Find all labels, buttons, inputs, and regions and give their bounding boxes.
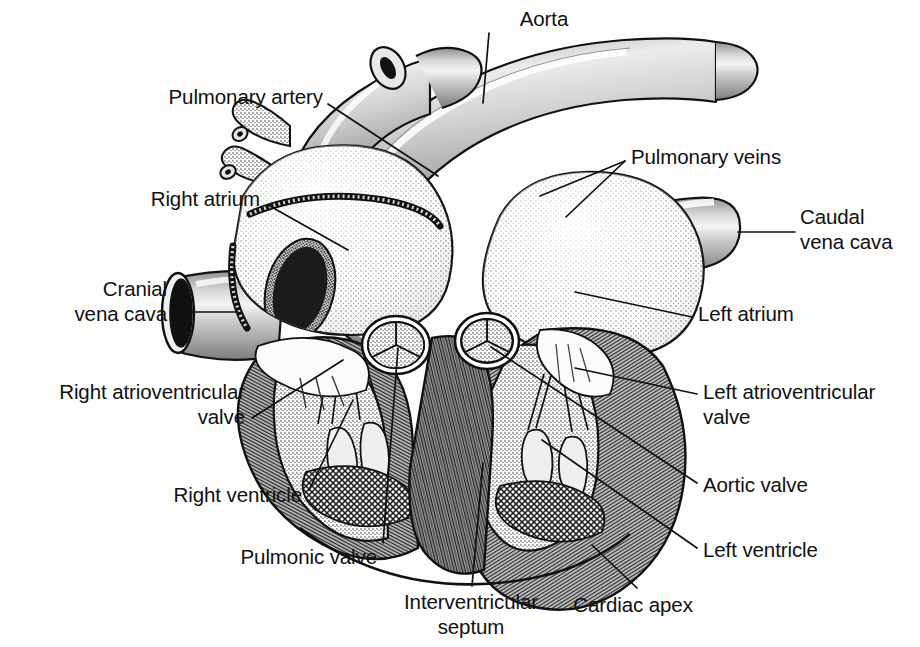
anatomical-figure: AortaPulmonary arteryPulmonary veinsRigh… [0, 0, 920, 647]
label-pulmonary-artery: Pulmonary artery [158, 84, 323, 109]
label-left-atrioventricular-valve: Left atrioventricular valve [703, 379, 903, 429]
label-left-ventricle: Left ventricle [703, 537, 835, 562]
label-aorta: Aorta [489, 6, 599, 31]
aortic-valve [455, 313, 519, 369]
label-cranial-vena-cava: Cranial vena cava [22, 276, 167, 326]
label-right-atrioventricular-valve: Right atrioventricular valve [55, 379, 245, 429]
label-cardiac-apex: Cardiac apex [562, 592, 704, 617]
interventricular-septum [409, 336, 493, 573]
label-right-ventricle: Right ventricle [162, 482, 302, 507]
label-pulmonary-veins: Pulmonary veins [631, 144, 801, 169]
label-pulmonic-valve: Pulmonic valve [229, 544, 377, 569]
label-interventricular-septum: Interventricular septum [392, 589, 550, 639]
label-aortic-valve: Aortic valve [703, 472, 828, 497]
label-caudal-vena-cava: Caudal vena cava [800, 204, 920, 254]
label-right-atrium: Right atrium [135, 186, 260, 211]
label-left-atrium: Left atrium [698, 301, 813, 326]
